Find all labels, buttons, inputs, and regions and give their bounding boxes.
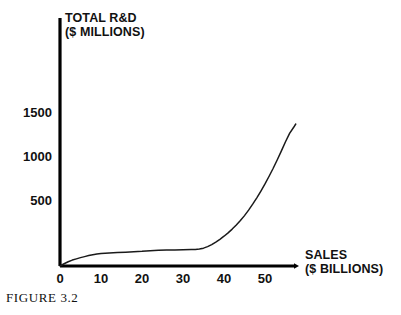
- figure-caption: FIGURE 3.2: [6, 290, 78, 306]
- x-axis-title-line2: ($ BILLIONS): [305, 262, 383, 276]
- x-axis-end-arrow: [294, 263, 299, 269]
- y-axis-title-line1: TOTAL R&D: [65, 11, 137, 25]
- y-tick-label-1000: 1000: [23, 149, 52, 164]
- x-tick-label-10: 10: [94, 271, 108, 286]
- y-tick-label-1500: 1500: [23, 105, 52, 120]
- data-series-line: [60, 124, 296, 266]
- x-tick-label-50: 50: [258, 271, 272, 286]
- x-axis-title-line1: SALES: [305, 248, 347, 262]
- y-tick-label-500: 500: [30, 193, 52, 208]
- x-tick-label-0: 0: [56, 271, 63, 286]
- figure-container: 1500 1000 500 0 10 20 30 40 50 TOTAL R&D…: [0, 0, 401, 315]
- rd-vs-sales-line-chart: 1500 1000 500 0 10 20 30 40 50 TOTAL R&D…: [0, 0, 401, 315]
- x-tick-label-40: 40: [217, 271, 231, 286]
- x-tick-label-20: 20: [135, 271, 149, 286]
- x-tick-label-30: 30: [176, 271, 190, 286]
- y-axis-title-line2: ($ MILLIONS): [65, 25, 145, 39]
